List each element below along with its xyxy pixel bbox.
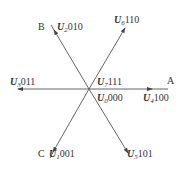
vector-label-u6: U6110: [114, 15, 139, 25]
axis-label-c: C: [38, 149, 45, 159]
vector-label-u2: U2010: [57, 22, 83, 32]
axis-b-line: [51, 25, 54, 30]
axis-label-b: B: [38, 22, 45, 32]
vector-label-u1: U1001: [49, 149, 75, 159]
vector-u2-line: [54, 30, 89, 89]
vector-label-u4: U4100: [143, 93, 169, 103]
vector-label-u0: U0000: [97, 93, 123, 103]
vector-label-u5: U5101: [127, 149, 153, 159]
vector-lines: [0, 0, 186, 181]
vector-label-u7: U7111: [97, 77, 122, 87]
vector-label-u3: U3011: [10, 77, 35, 87]
axis-label-a: A: [167, 76, 174, 86]
vector-u1-line: [53, 89, 89, 152]
space-vector-diagram: B A C U2010 U6110 U3011 U7111 U0000 U410…: [0, 0, 186, 181]
